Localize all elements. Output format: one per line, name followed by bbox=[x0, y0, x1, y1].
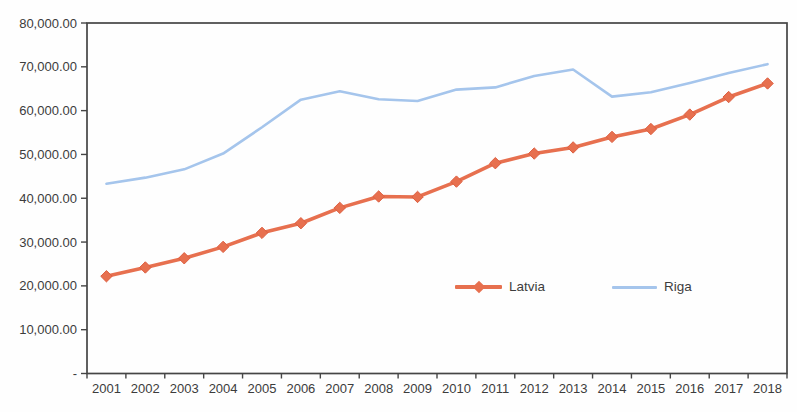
x-axis-label: 2012 bbox=[520, 381, 549, 396]
x-axis-label: 2009 bbox=[403, 381, 432, 396]
x-axis-label: 2008 bbox=[364, 381, 393, 396]
latvia-data-point-marker bbox=[140, 262, 151, 273]
x-axis-label: 2005 bbox=[248, 381, 277, 396]
latvia-data-point-marker bbox=[256, 227, 267, 238]
latvia-data-point-marker bbox=[684, 109, 695, 120]
x-axis-label: 2001 bbox=[92, 381, 121, 396]
latvia-data-point-marker bbox=[762, 78, 773, 89]
x-axis-label: 2003 bbox=[170, 381, 199, 396]
latvia-data-point-marker bbox=[295, 218, 306, 229]
latvia-data-point-marker bbox=[606, 131, 617, 142]
y-axis-label: - bbox=[73, 366, 77, 381]
y-axis-label: 60,000.00 bbox=[19, 103, 77, 118]
latvia-data-point-marker bbox=[529, 148, 540, 159]
latvia-data-point-marker bbox=[412, 191, 423, 202]
latvia-data-point-marker bbox=[373, 191, 384, 202]
latvia-data-point-marker bbox=[490, 158, 501, 169]
x-axis-label: 2017 bbox=[714, 381, 743, 396]
y-axis-label: 40,000.00 bbox=[19, 191, 77, 206]
plot-area-border bbox=[87, 23, 787, 374]
latvia-data-point-marker bbox=[217, 241, 228, 252]
latvia-data-point-marker bbox=[645, 123, 656, 134]
y-axis-label: 70,000.00 bbox=[19, 59, 77, 74]
x-axis-label: 2014 bbox=[598, 381, 627, 396]
x-axis-label: 2007 bbox=[325, 381, 354, 396]
latvia-line-sample-icon bbox=[455, 285, 502, 289]
legend-item-riga: Riga bbox=[612, 278, 692, 296]
line-chart-canvas: -10,000.0020,000.0030,000.0040,000.0050,… bbox=[0, 0, 797, 412]
x-axis-label: 2006 bbox=[286, 381, 315, 396]
latvia-data-point-marker bbox=[179, 253, 190, 264]
legend-item-latvia: Latvia bbox=[455, 278, 545, 296]
latvia-data-point-marker bbox=[567, 142, 578, 153]
legend-label-latvia: Latvia bbox=[509, 278, 545, 296]
y-axis-label: 10,000.00 bbox=[19, 322, 77, 337]
y-axis-label: 50,000.00 bbox=[19, 147, 77, 162]
latvia-series-line bbox=[106, 83, 767, 276]
x-axis-label: 2011 bbox=[481, 381, 509, 396]
x-axis-label: 2002 bbox=[131, 381, 160, 396]
x-axis-label: 2015 bbox=[636, 381, 665, 396]
latvia-data-point-marker bbox=[334, 202, 345, 213]
y-axis-label: 30,000.00 bbox=[19, 235, 77, 250]
y-axis-label: 20,000.00 bbox=[19, 278, 77, 293]
x-axis-label: 2013 bbox=[559, 381, 588, 396]
latvia-data-point-marker bbox=[451, 176, 462, 187]
latvia-data-point-marker bbox=[723, 91, 734, 102]
legend-label-riga: Riga bbox=[664, 278, 692, 296]
y-axis-label: 80,000.00 bbox=[19, 16, 77, 31]
latvia-diamond-marker-icon bbox=[472, 281, 485, 294]
x-axis-label: 2018 bbox=[753, 381, 782, 396]
wage-comparison-chart-figure: -10,000.0020,000.0030,000.0040,000.0050,… bbox=[0, 0, 797, 412]
riga-line-sample-icon bbox=[612, 286, 657, 289]
latvia-data-point-marker bbox=[101, 271, 112, 282]
x-axis-label: 2010 bbox=[442, 381, 471, 396]
x-axis-label: 2004 bbox=[209, 381, 238, 396]
x-axis-label: 2016 bbox=[675, 381, 704, 396]
